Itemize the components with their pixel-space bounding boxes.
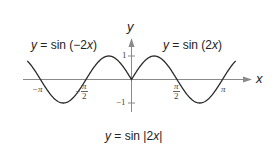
x-axis-label: x (256, 71, 263, 86)
x-axis-arrow-icon (243, 77, 252, 83)
eq-close: ) (218, 38, 222, 52)
frac-denominator: 2 (173, 92, 180, 101)
y-axis-label: y (127, 19, 134, 34)
eq-body: = sin (2 (169, 38, 212, 52)
annotation-left-equation: y = sin (−2x) (31, 38, 97, 52)
x-tick-label-half-pi: π 2 (173, 82, 180, 101)
x-tick-label-neg-pi: −π (32, 84, 43, 94)
frac-denominator: 2 (81, 92, 88, 101)
y-tick-label-neg-1: −1 (116, 97, 126, 107)
eq-close: ) (93, 38, 97, 52)
eq-body: = sin |2 (111, 129, 153, 143)
x-tick-label-neg-half-pi: π 2 (81, 82, 88, 101)
y-tick-label-1: 1 (122, 50, 127, 60)
annotation-bottom-equation: y = sin |2x| (105, 129, 162, 143)
eq-close: | (159, 129, 162, 143)
eq-body: = sin (−2 (37, 38, 87, 52)
x-tick-label-pi: π (221, 84, 226, 94)
annotation-right-equation: y = sin (2x) (163, 38, 222, 52)
y-axis-arrow-icon (129, 38, 135, 47)
x-tick-label-neg-half-pi-sign: − (75, 86, 80, 96)
